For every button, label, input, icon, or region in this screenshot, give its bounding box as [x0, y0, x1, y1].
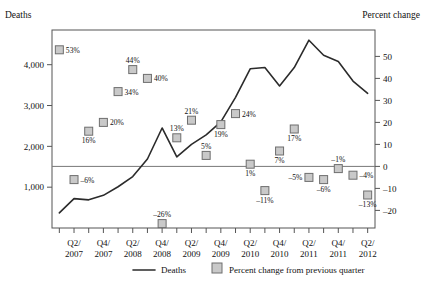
percent-change-label: –4% [358, 171, 374, 180]
x-axis-label-year: 2010 [241, 249, 260, 259]
chart-svg: 4,0003,0002,0001,000 50403020100–10–20 5… [0, 0, 426, 290]
percent-change-label: –26% [152, 210, 171, 219]
percent-change-label: 19% [214, 130, 229, 139]
percent-change-marker [129, 66, 137, 74]
percent-change-label: 34% [125, 88, 140, 97]
percent-change-marker [320, 176, 328, 184]
x-axis-label-year: 2007 [65, 249, 84, 259]
percent-change-marker [85, 127, 93, 135]
percent-change-label: –1% [330, 155, 346, 164]
percent-change-marker [202, 151, 210, 159]
x-axis-label-year: 2012 [359, 249, 377, 259]
right-axis-tick-label: –20 [382, 206, 397, 216]
right-axis-tick-label: 40 [383, 74, 393, 84]
x-axis-labels: Q2/2007Q4/2007Q2/2008Q4/2008Q2/2009Q4/20… [65, 238, 377, 259]
percent-change-label: 44% [126, 56, 141, 65]
percent-change-marker [55, 46, 63, 54]
x-axis-label-quarter: Q4/ [155, 238, 169, 248]
percent-change-label: 20% [110, 118, 125, 127]
percent-change-label: 1% [245, 169, 256, 178]
right-axis-tick-label: 50 [383, 52, 393, 62]
x-axis-label-quarter: Q2/ [67, 238, 81, 248]
percent-change-label: 17% [287, 134, 302, 143]
percent-change-label: 21% [185, 107, 200, 116]
left-axis-ticks: 4,0003,0002,0001,000 [24, 60, 52, 192]
x-axis-label-year: 2008 [124, 249, 143, 259]
x-axis-label-quarter: Q2/ [361, 238, 375, 248]
percent-change-label: –6% [316, 185, 332, 194]
x-axis-label-quarter: Q2/ [185, 238, 199, 248]
percent-change-label: –6% [80, 176, 96, 185]
percent-change-label: –11% [255, 196, 274, 205]
percent-change-marker [70, 176, 78, 184]
percent-change-markers: 53%–6%16%20%34%44%40%–26%13%21%5%19%24%1… [55, 46, 377, 228]
percent-change-label: 13% [170, 124, 185, 133]
x-axis-label-year: 2009 [182, 249, 201, 259]
percent-change-label: 40% [154, 74, 169, 83]
percent-change-label: 5% [201, 142, 212, 151]
percent-change-marker [305, 173, 313, 181]
percent-change-marker [334, 165, 342, 173]
x-axis-label-quarter: Q4/ [97, 238, 111, 248]
percent-change-marker [246, 160, 254, 168]
percent-change-label: 16% [82, 136, 97, 145]
left-axis-tick-label: 4,000 [24, 60, 45, 70]
legend-label-deaths: Deaths [161, 265, 186, 275]
percent-change-marker [261, 187, 269, 195]
percent-change-marker [276, 147, 284, 155]
percent-change-label: –13% [358, 200, 377, 209]
percent-change-marker [290, 125, 298, 133]
x-axis-ticks [59, 228, 367, 233]
legend-label-percent-change: Percent change from previous quarter [229, 265, 364, 275]
left-axis-tick-label: 2,000 [24, 142, 45, 152]
x-axis-label-year: 2009 [212, 249, 231, 259]
right-axis-ticks: 50403020100–10–20 [375, 52, 397, 216]
right-axis-tick-label: 10 [383, 140, 393, 150]
x-axis-label-quarter: Q2/ [243, 238, 257, 248]
percent-change-marker [349, 171, 357, 179]
x-axis-label-quarter: Q4/ [332, 238, 346, 248]
x-axis-label-year: 2010 [271, 249, 290, 259]
x-axis-label-year: 2007 [94, 249, 113, 259]
percent-change-label: –5% [288, 173, 304, 182]
x-axis-label-year: 2008 [153, 249, 172, 259]
percent-change-marker [143, 74, 151, 82]
percent-change-marker [173, 134, 181, 142]
percent-change-marker [217, 121, 225, 129]
percent-change-marker [158, 220, 166, 228]
percent-change-label: 24% [242, 110, 257, 119]
left-axis-tick-label: 3,000 [24, 101, 45, 111]
chart-legend: DeathsPercent change from previous quart… [133, 263, 364, 275]
percent-change-marker [114, 88, 122, 96]
x-axis-label-quarter: Q2/ [302, 238, 316, 248]
percent-change-label: 7% [275, 156, 286, 165]
percent-change-marker [232, 110, 240, 118]
right-axis-tick-label: 30 [383, 96, 393, 106]
x-axis-label-year: 2011 [329, 249, 347, 259]
right-axis-tick-label: –10 [382, 184, 397, 194]
right-axis-tick-label: 20 [383, 118, 393, 128]
percent-change-marker [364, 191, 372, 199]
x-axis-label-quarter: Q4/ [214, 238, 228, 248]
x-axis-label-year: 2011 [300, 249, 318, 259]
left-axis-tick-label: 1,000 [24, 182, 45, 192]
percent-change-marker [99, 118, 107, 126]
percent-change-label: 53% [66, 46, 81, 55]
chart-container: Deaths Percent change 4,0003,0002,0001,0… [0, 0, 426, 290]
legend-swatch-percent-change [212, 263, 222, 273]
percent-change-marker [187, 116, 195, 124]
right-axis-tick-label: 0 [383, 162, 388, 172]
x-axis-label-quarter: Q4/ [273, 238, 287, 248]
x-axis-label-quarter: Q2/ [126, 238, 140, 248]
